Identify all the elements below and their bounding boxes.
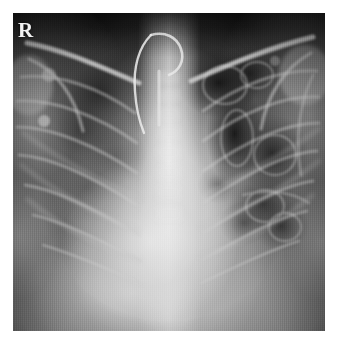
screenshot-root: R — [0, 0, 337, 340]
chest-radiograph-image: R — [13, 13, 325, 331]
scan-grain-texture — [13, 13, 325, 331]
laterality-marker-r: R — [18, 20, 33, 41]
